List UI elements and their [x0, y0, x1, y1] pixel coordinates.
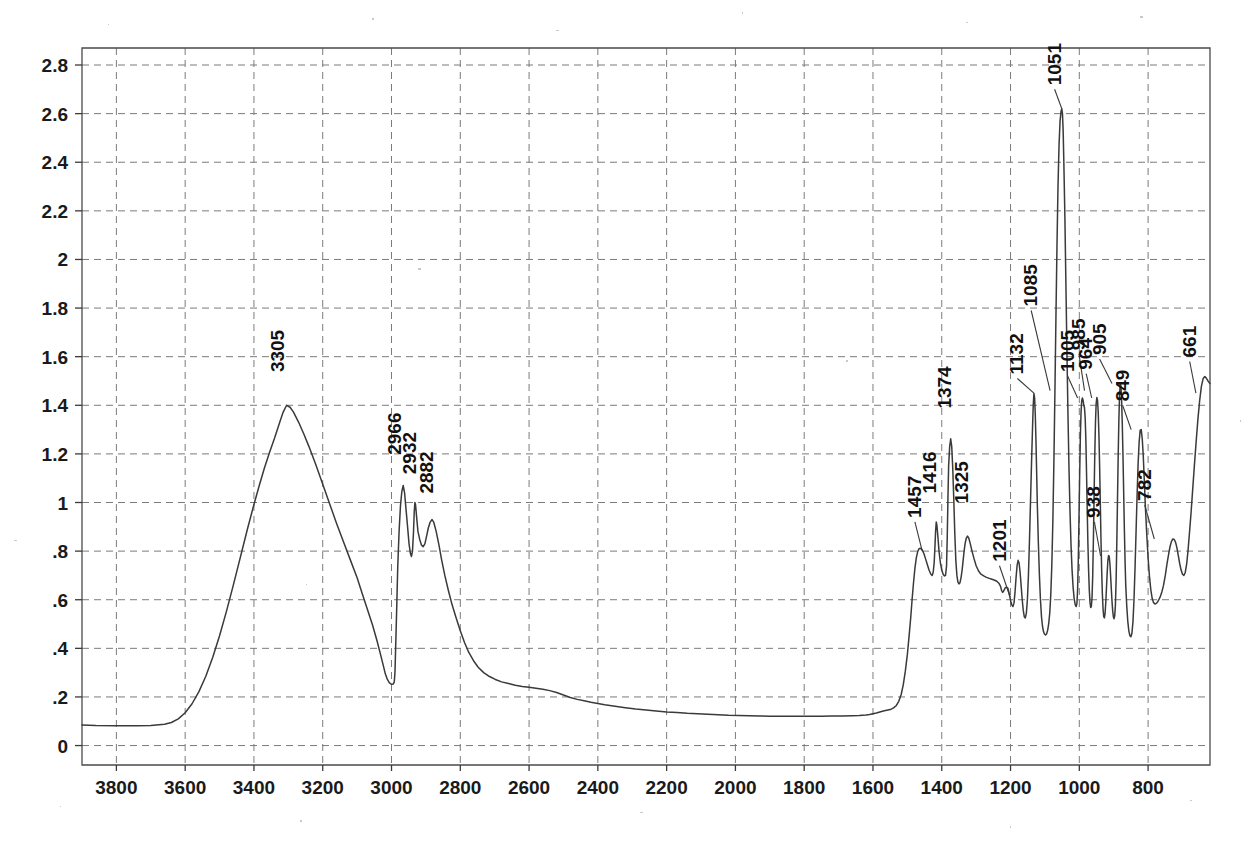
y-tick-label: 1.2 [42, 444, 68, 465]
x-tick-label: 1800 [783, 777, 825, 798]
peak-leader-line [1031, 311, 1050, 391]
peak-label: 1374 [934, 366, 955, 409]
peak-label: 1325 [951, 461, 972, 504]
peak-label: 2882 [416, 451, 437, 493]
x-tick-label: 3800 [95, 777, 137, 798]
peak-label: 849 [1112, 370, 1133, 402]
y-tick-label: 0 [57, 736, 68, 757]
peak-leader-line [1017, 379, 1034, 394]
y-axis-tick-labels: 0.2.4.6.811.21.41.61.822.22.42.62.8 [42, 55, 69, 757]
peak-label: 1132 [1006, 333, 1027, 374]
x-tick-label: 1200 [989, 777, 1031, 798]
x-tick-label: 1000 [1058, 777, 1100, 798]
x-axis-ticks [116, 765, 1148, 771]
peak-label: 1416 [919, 451, 940, 493]
y-tick-label: 1.4 [42, 395, 69, 416]
y-tick-label: 1.6 [42, 347, 68, 368]
peak-leader-line [1190, 362, 1196, 394]
scan-noise-speckles [14, 12, 1241, 828]
spectrum-chart: 3800360034003200300028002600240022002000… [0, 0, 1260, 843]
x-tick-label: 1600 [852, 777, 894, 798]
peak-leader-line [1100, 359, 1112, 383]
spectrum-curve [82, 109, 1210, 726]
peak-label: 3305 [267, 329, 288, 372]
spectrum-trace [82, 109, 1210, 726]
peak-leader-line [1000, 566, 1011, 598]
x-tick-label: 2600 [508, 777, 550, 798]
y-tick-label: .4 [52, 638, 68, 659]
y-tick-label: 1.8 [42, 298, 68, 319]
y-axis-ticks [75, 65, 82, 746]
x-tick-label: 2000 [714, 777, 756, 798]
x-tick-label: 3000 [370, 777, 412, 798]
peak-label: 905 [1089, 323, 1110, 355]
peak-label: 782 [1134, 469, 1155, 501]
x-tick-label: 2400 [577, 777, 619, 798]
y-tick-label: .6 [52, 590, 68, 611]
y-tick-label: 2 [57, 249, 68, 270]
x-tick-label: 1400 [921, 777, 963, 798]
y-tick-label: 2.4 [42, 152, 69, 173]
x-tick-label: 2200 [645, 777, 687, 798]
peak-label: 1051 [1044, 43, 1065, 86]
y-tick-label: .2 [52, 687, 68, 708]
x-axis-tick-labels: 3800360034003200300028002600240022002000… [95, 777, 1164, 798]
ir-spectrum-figure: 3800360034003200300028002600240022002000… [0, 0, 1260, 843]
y-tick-label: .8 [52, 541, 68, 562]
peak-label: 1201 [989, 519, 1010, 562]
peak-leader-line [1068, 376, 1078, 398]
x-tick-label: 3600 [164, 777, 206, 798]
y-tick-label: 1 [57, 493, 68, 514]
peak-leader-line [1055, 89, 1062, 109]
y-tick-label: 2.8 [42, 55, 68, 76]
peak-leader-line [1123, 405, 1132, 429]
peak-label: 661 [1179, 325, 1200, 357]
peak-leader-line [915, 522, 922, 551]
peak-label: 1085 [1020, 264, 1041, 307]
peak-label: 938 [1083, 486, 1104, 518]
x-tick-label: 800 [1132, 777, 1164, 798]
x-tick-label: 3400 [233, 777, 275, 798]
peak-leader-line [1086, 374, 1092, 398]
y-tick-label: 2.6 [42, 104, 68, 125]
x-tick-label: 3200 [302, 777, 344, 798]
grid-lines [82, 48, 1210, 765]
x-tick-label: 2800 [439, 777, 481, 798]
plot-frame [82, 48, 1210, 765]
y-tick-label: 2.2 [42, 201, 68, 222]
